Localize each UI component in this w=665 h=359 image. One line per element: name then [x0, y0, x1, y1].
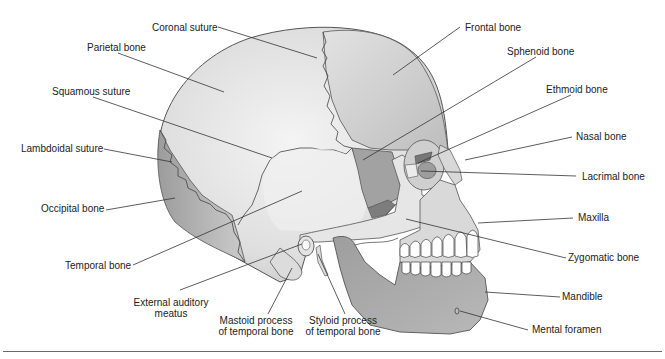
- label-squamous-suture: Squamous suture: [52, 86, 130, 97]
- label-ethmoid-bone: Ethmoid bone: [546, 84, 608, 95]
- label-lambdoidal-suture: Lambdoidal suture: [21, 143, 103, 154]
- lacrimal-bone: [418, 162, 436, 178]
- label-parietal-bone: Parietal bone: [87, 42, 146, 53]
- label-styloid-process: Styloid process of temporal bone: [305, 315, 381, 337]
- bottom-divider: [3, 351, 662, 352]
- temporal-squama: [263, 149, 367, 231]
- label-maxilla: Maxilla: [578, 212, 609, 223]
- label-lacrimal-bone: Lacrimal bone: [582, 171, 645, 182]
- label-mental-foramen: Mental foramen: [532, 324, 601, 335]
- mental-foramen-hole: [455, 308, 459, 314]
- label-frontal-bone: Frontal bone: [465, 22, 521, 33]
- label-mandible: Mandible: [562, 291, 603, 302]
- label-occipital-bone: Occipital bone: [41, 203, 104, 214]
- label-coronal-suture: Coronal suture: [152, 22, 218, 33]
- label-sphenoid-bone: Sphenoid bone: [507, 46, 574, 57]
- label-nasal-bone: Nasal bone: [576, 131, 627, 142]
- label-external-auditory-meatus: External auditory meatus: [130, 297, 212, 319]
- label-zygomatic-bone: Zygomatic bone: [568, 252, 639, 263]
- label-temporal-bone: Temporal bone: [65, 260, 131, 271]
- label-mastoid-process: Mastoid process of temporal bone: [218, 315, 294, 337]
